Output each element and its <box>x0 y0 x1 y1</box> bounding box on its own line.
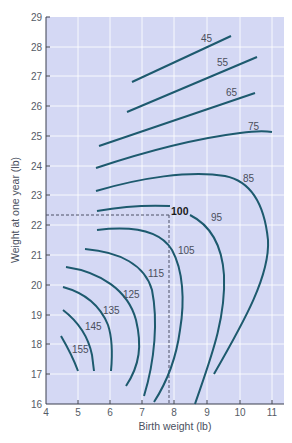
svg-text:10: 10 <box>234 407 246 418</box>
svg-text:85: 85 <box>243 173 255 184</box>
svg-text:17: 17 <box>31 369 43 380</box>
svg-text:19: 19 <box>31 310 43 321</box>
svg-text:5: 5 <box>75 407 81 418</box>
svg-text:105: 105 <box>178 245 195 256</box>
svg-text:24: 24 <box>31 161 43 172</box>
contour-chart: 16 17 18 19 20 21 22 23 24 25 26 27 28 2… <box>0 0 292 443</box>
svg-text:18: 18 <box>31 339 43 350</box>
y-tick-labels: 16 17 18 19 20 21 22 23 24 25 26 27 28 2… <box>31 12 43 410</box>
svg-text:75: 75 <box>248 121 260 132</box>
svg-text:6: 6 <box>107 407 113 418</box>
svg-text:29: 29 <box>31 12 43 23</box>
svg-text:135: 135 <box>103 305 120 316</box>
svg-text:11: 11 <box>267 407 278 418</box>
svg-text:21: 21 <box>31 250 43 261</box>
svg-text:145: 145 <box>85 321 102 332</box>
svg-text:23: 23 <box>31 190 43 201</box>
x-tick-labels: 4 5 6 7 8 9 10 11 <box>43 407 277 418</box>
svg-text:8: 8 <box>171 407 177 418</box>
svg-text:65: 65 <box>226 87 238 98</box>
svg-text:26: 26 <box>31 101 43 112</box>
svg-text:4: 4 <box>43 407 49 418</box>
svg-text:55: 55 <box>217 57 229 68</box>
svg-text:155: 155 <box>72 344 89 355</box>
svg-text:20: 20 <box>31 280 43 291</box>
svg-text:27: 27 <box>31 71 43 82</box>
svg-text:25: 25 <box>31 131 43 142</box>
x-axis-title: Birth weight (lb) <box>139 420 212 432</box>
svg-text:100: 100 <box>171 205 189 217</box>
svg-text:28: 28 <box>31 42 43 53</box>
svg-text:16: 16 <box>31 399 43 410</box>
svg-text:125: 125 <box>123 289 140 300</box>
svg-text:22: 22 <box>31 220 43 231</box>
svg-text:45: 45 <box>201 33 213 44</box>
svg-text:95: 95 <box>211 212 223 223</box>
y-axis-title: Weight at one year (lb) <box>9 157 21 263</box>
svg-text:115: 115 <box>148 268 164 279</box>
svg-text:7: 7 <box>139 407 145 418</box>
svg-text:9: 9 <box>204 407 210 418</box>
